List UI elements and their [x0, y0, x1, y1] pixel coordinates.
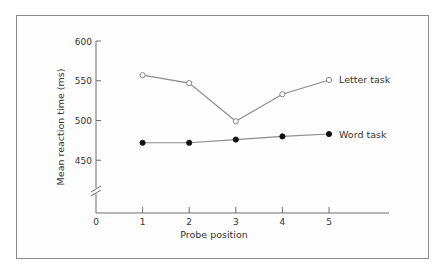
- x-tick-label: 1: [140, 217, 146, 227]
- series-group: Letter taskWord task: [140, 73, 391, 146]
- x-tick-label: 4: [280, 217, 286, 227]
- x-tick-label: 2: [186, 217, 192, 227]
- data-point: [326, 77, 331, 82]
- data-point: [187, 81, 192, 86]
- x-axis-label: Probe position: [180, 229, 248, 240]
- data-point: [187, 140, 192, 145]
- legend-label: Word task: [339, 129, 387, 140]
- data-point: [280, 134, 285, 139]
- data-point: [280, 92, 285, 97]
- y-tick-label: 550: [75, 76, 92, 86]
- series-letter-task: Letter task: [140, 73, 391, 124]
- data-point: [140, 140, 145, 145]
- x-tick-label: 0: [93, 217, 99, 227]
- y-tick-label: 600: [75, 37, 92, 47]
- x-tick-label: 5: [326, 217, 332, 227]
- data-point: [140, 73, 145, 78]
- y-axis-label: Mean reaction time (ms): [55, 69, 66, 186]
- line-chart: 600550500450012345 Letter taskWord task …: [0, 0, 445, 274]
- data-point: [233, 119, 238, 124]
- series-word-task: Word task: [140, 129, 387, 146]
- y-tick-label: 500: [75, 116, 92, 126]
- data-point: [233, 137, 238, 142]
- legend-label: Letter task: [339, 74, 391, 85]
- x-tick-label: 3: [233, 217, 239, 227]
- y-tick-label: 450: [75, 156, 92, 166]
- data-point: [326, 131, 331, 136]
